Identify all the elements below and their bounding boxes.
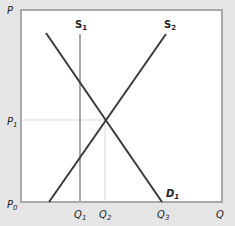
- p1-label: P1: [7, 116, 18, 129]
- q3-label: Q3: [157, 209, 169, 222]
- q2-label: Q2: [99, 209, 112, 222]
- p0-label: P0: [7, 199, 18, 212]
- y-axis-label: P: [7, 5, 14, 16]
- x-axis-label: Q: [216, 209, 224, 220]
- q1-label: Q1: [74, 209, 86, 222]
- supply-demand-diagram: P P1 P0 Q1 Q2 Q3 Q S1 S2 D1: [0, 0, 235, 226]
